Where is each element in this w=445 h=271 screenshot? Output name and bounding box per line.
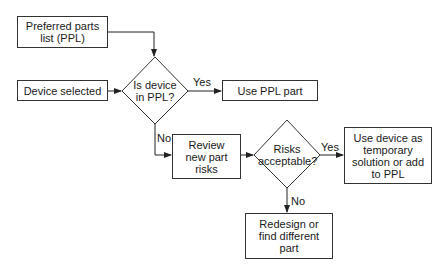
edge-label-in-ppl-no: No	[157, 132, 171, 144]
node-review-risks-label: Review new part risks	[182, 139, 232, 175]
decision-risks-label: Risks acceptable?	[254, 140, 320, 170]
node-use-ppl-part-label: Use PPL part	[237, 85, 302, 97]
node-use-temporary: Use device as temporary solution or add …	[344, 127, 432, 184]
edge-label-risks-yes: Yes	[321, 141, 339, 153]
node-redesign: Redesign or find different part	[245, 213, 333, 259]
decision-in-ppl-text: Is device in PPL?	[130, 79, 180, 103]
node-device-selected-label: Device selected	[24, 85, 102, 97]
decision-risks-text: Risks acceptable?	[258, 143, 316, 167]
node-device-selected: Device selected	[17, 80, 108, 101]
decision-in-ppl-label: Is device in PPL?	[130, 76, 180, 106]
node-review-risks: Review new part risks	[172, 134, 241, 179]
node-use-ppl-part: Use PPL part	[222, 80, 318, 101]
node-ppl-list-label: Preferred parts list (PPL)	[20, 20, 105, 44]
node-ppl-list: Preferred parts list (PPL)	[17, 16, 108, 48]
edge-label-risks-no: No	[291, 195, 305, 207]
node-use-temporary-label: Use device as temporary solution or add …	[350, 132, 426, 180]
node-redesign-label: Redesign or find different part	[254, 218, 324, 254]
edge-label-in-ppl-yes: Yes	[193, 76, 211, 88]
